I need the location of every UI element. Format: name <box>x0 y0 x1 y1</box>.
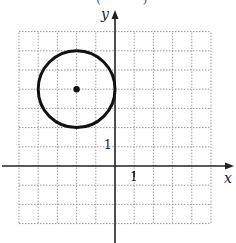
y-tick-label: 1 <box>104 138 112 152</box>
graph-canvas <box>0 0 236 243</box>
center-point <box>73 86 79 92</box>
x-tick-label: 1 <box>130 170 138 184</box>
x-axis-arrow-icon <box>225 163 234 170</box>
y-axis-label: y <box>101 6 109 22</box>
x-axis-label: x <box>224 170 232 186</box>
y-axis-arrow-icon <box>112 10 119 19</box>
coordinate-plane: ( ) y x 1 1 <box>0 0 236 243</box>
